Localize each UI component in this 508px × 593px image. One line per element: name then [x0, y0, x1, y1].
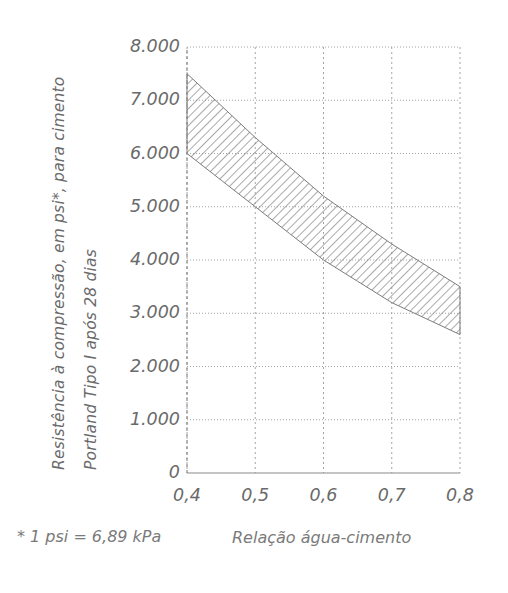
x-axis-title: Relação água-cimento: [232, 528, 411, 547]
y-tick-label: 0: [100, 464, 180, 482]
y-axis-title-line-1: Resistência à compressão, em psi*, para …: [50, 10, 68, 470]
plot-area: [187, 47, 460, 473]
footnote: * 1 psi = 6,89 kPa: [17, 527, 161, 546]
chart-figure: Resistência à compressão, em psi*, para …: [0, 0, 508, 593]
x-tick-label: 0,6: [294, 487, 354, 505]
y-tick-label: 4.000: [100, 251, 180, 269]
x-tick-label: 0,7: [362, 487, 422, 505]
x-tick-label: 0,8: [430, 487, 490, 505]
y-tick-label: 8.000: [100, 38, 180, 56]
y-axis-title-line-2: Portland Tipo I após 28 dias: [82, 10, 100, 470]
y-tick-label: 1.000: [100, 411, 180, 429]
y-tick-label: 5.000: [100, 198, 180, 216]
y-tick-label: 2.000: [100, 358, 180, 376]
y-axis-tick-labels: 8.0007.0006.0005.0004.0003.0002.0001.000…: [100, 0, 180, 520]
y-tick-label: 7.000: [100, 91, 180, 109]
y-axis-title-group: Resistência à compressão, em psi*, para …: [0, 0, 110, 500]
x-axis-tick-labels: 0,40,50,60,70,8: [0, 487, 508, 517]
y-tick-label: 6.000: [100, 145, 180, 163]
x-tick-label: 0,4: [157, 487, 217, 505]
y-tick-label: 3.000: [100, 304, 180, 322]
chart-canvas: [180, 40, 467, 480]
x-tick-label: 0,5: [225, 487, 285, 505]
